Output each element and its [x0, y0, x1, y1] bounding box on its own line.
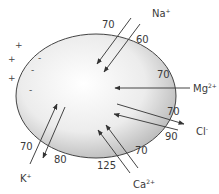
ion-charge: + [27, 172, 32, 179]
flux-value: 60 [136, 35, 149, 45]
ion-flux-diagram: + + + - - - Na+ 70 60 Mg2+ 70 Cl- 70 90 … [0, 0, 219, 194]
flux-value: 70 [20, 142, 33, 152]
ion-charge: 2+ [208, 82, 217, 89]
ion-charge: 2+ [146, 178, 155, 185]
ion-label-na: Na+ [152, 8, 171, 19]
inside-charge: - [31, 66, 34, 75]
flux-value: 80 [54, 155, 67, 165]
ion-label-cl: Cl- [196, 126, 208, 137]
ion-name: Ca [133, 179, 146, 190]
ion-label-mg: Mg2+ [193, 83, 217, 94]
ion-name: Na [152, 8, 166, 19]
flux-value: 125 [97, 161, 116, 171]
flux-value: 70 [102, 20, 115, 30]
ion-label-k: K+ [20, 173, 32, 184]
flux-value: 70 [167, 107, 180, 117]
ion-name: Mg [193, 83, 208, 94]
inside-charge: - [29, 86, 32, 95]
inside-charge: - [38, 54, 41, 63]
flux-value: 70 [135, 146, 148, 156]
flux-value: 90 [165, 132, 178, 142]
flux-value: 70 [157, 70, 170, 80]
ion-name: Cl [196, 126, 206, 137]
ion-charge: + [166, 7, 171, 14]
outside-charge: + [8, 74, 16, 83]
ion-label-ca: Ca2+ [133, 179, 155, 190]
outside-charge: + [15, 41, 23, 50]
ion-charge: - [206, 125, 208, 132]
outside-charge: + [8, 55, 16, 64]
